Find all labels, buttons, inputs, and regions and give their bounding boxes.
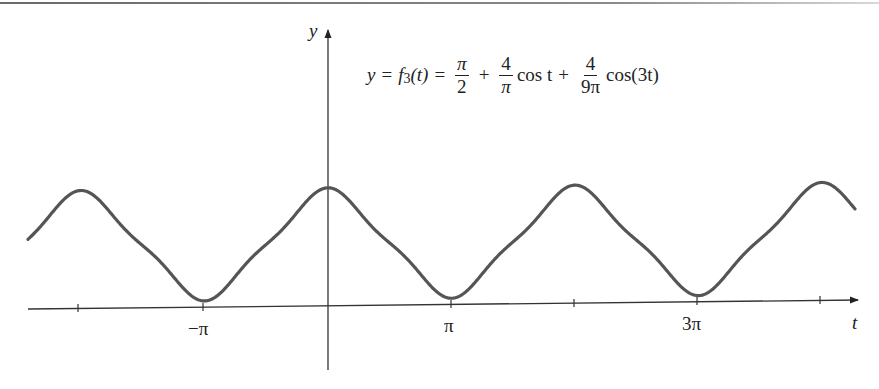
- frac-den: 2: [455, 76, 469, 97]
- formula-cos-3t: cos(3t): [606, 64, 659, 86]
- function-formula: y = f3(t) = π2 + 4π cos t + 49π cos(3t): [367, 54, 659, 97]
- formula-subscript: 3: [403, 71, 410, 87]
- t-axis: [28, 300, 858, 309]
- fraction-4-over-pi: 4π: [499, 54, 513, 97]
- frac-num: π: [455, 54, 469, 76]
- tick-label-neg-pi: −π: [188, 318, 208, 340]
- tick-label-3pi: 3π: [682, 313, 701, 335]
- frac-den: 9π: [579, 76, 602, 97]
- formula-arg: (t): [410, 64, 428, 86]
- fraction-pi-over-2: π2: [455, 54, 469, 97]
- y-axis-label: y: [309, 20, 317, 42]
- f3-curve: [28, 182, 855, 300]
- formula-cos-t: cos t: [517, 64, 552, 86]
- formula-equals-2: =: [434, 64, 445, 86]
- formula-plus: +: [479, 64, 490, 86]
- tick-label-pi: π: [444, 315, 454, 337]
- frac-num: 4: [584, 54, 598, 76]
- formula-plus-2: +: [558, 64, 569, 86]
- frac-den: π: [499, 76, 513, 97]
- formula-lhs: y: [367, 64, 375, 86]
- formula-equals: =: [381, 64, 392, 86]
- fraction-4-over-9pi: 49π: [579, 54, 602, 97]
- t-axis-label: t: [852, 312, 857, 334]
- frac-num: 4: [499, 54, 513, 76]
